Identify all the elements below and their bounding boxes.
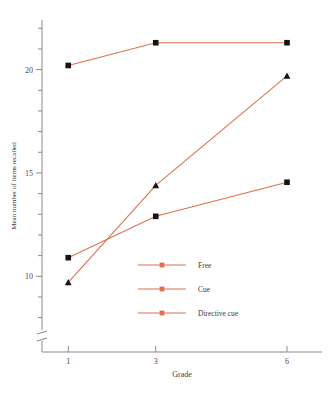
y-axis-title: Mean number of items recalled <box>10 142 18 230</box>
series-line-free <box>68 43 287 66</box>
x-axis-ticks <box>68 346 287 352</box>
data-point-marker <box>284 72 291 78</box>
y-axis-tick-label: 10 <box>25 272 33 281</box>
legend-marker-swatch <box>160 287 165 292</box>
y-axis-break-symbol <box>37 331 47 341</box>
data-point-marker <box>284 179 290 185</box>
x-axis-title: Grade <box>172 370 192 379</box>
x-axis-tick-label: 6 <box>285 357 289 366</box>
series-line-directive-cue <box>68 76 287 283</box>
line-chart-figure: 101520 136 FreeCueDirective cue Grade Me… <box>0 0 331 397</box>
data-point-marker <box>65 255 71 261</box>
legend-label: Free <box>198 261 212 270</box>
x-axis-tick-labels: 136 <box>66 357 289 366</box>
legend-marker-swatch <box>160 311 165 316</box>
data-point-marker <box>153 214 159 220</box>
y-axis-tick-label: 15 <box>25 169 33 178</box>
data-point-marker <box>153 40 159 46</box>
data-series-lines <box>68 43 287 283</box>
legend-marker-swatch <box>160 263 165 268</box>
data-point-marker <box>284 40 290 46</box>
chart-legend: FreeCueDirective cue <box>138 261 239 318</box>
y-axis-tick-label: 20 <box>25 66 33 75</box>
x-axis-tick-label: 1 <box>66 357 70 366</box>
y-axis-tick-labels: 101520 <box>25 66 33 282</box>
chart-canvas: 101520 136 FreeCueDirective cue Grade Me… <box>0 0 331 397</box>
y-axis-major-ticks <box>36 70 42 277</box>
legend-label: Directive cue <box>198 309 239 318</box>
x-axis-tick-label: 3 <box>154 357 158 366</box>
legend-label: Cue <box>198 285 211 294</box>
data-point-marker <box>65 63 71 69</box>
